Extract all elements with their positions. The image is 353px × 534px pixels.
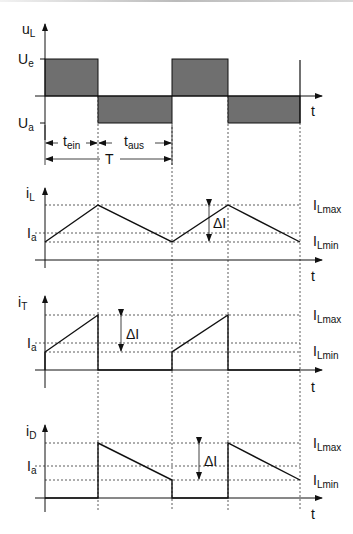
- iD-time-label: t: [311, 506, 315, 522]
- iL-axis-label: iL: [26, 185, 35, 203]
- plot-iT: ΔI iT Ia ILmax ILmin t: [18, 294, 341, 395]
- Ua-level-label: Ua: [18, 115, 34, 133]
- plot-iL: ΔI iL Ia ILmax ILmin t: [26, 185, 341, 284]
- iL-time-label: t: [311, 268, 315, 284]
- iD-ILmax-label: ILmax: [313, 435, 341, 453]
- iT-time-label: t: [311, 379, 315, 395]
- iD-Ia-label: Ia: [27, 458, 37, 476]
- iD-axis-label: iD: [26, 423, 36, 441]
- uL-time-label: t: [311, 103, 315, 119]
- iL-Ia-label: Ia: [27, 225, 37, 243]
- iT-delta-label: ΔI: [126, 326, 139, 342]
- iT-ILmin-label: ILmin: [313, 343, 339, 361]
- iD-ILmin-label: ILmin: [313, 472, 339, 490]
- buck-converter-waveform-diagram: uL Ue Ua t tein taus T ΔI iL Ia ILmax IL…: [0, 0, 353, 534]
- timing-dimensions: tein taus T: [45, 125, 172, 167]
- iL-ILmax-label: ILmax: [313, 197, 341, 215]
- ton-label: tein: [63, 133, 80, 151]
- plot-iD: ΔI iD Ia ILmax ILmin t: [26, 423, 341, 522]
- Ue-level-label: Ue: [18, 51, 34, 69]
- iD-delta-label: ΔI: [204, 453, 217, 469]
- uL-axis-label: uL: [22, 21, 36, 39]
- iT-Ia-label: Ia: [27, 335, 37, 353]
- toff-label: taus: [124, 133, 144, 151]
- iL-delta-label: ΔI: [213, 215, 226, 231]
- plot-uL: uL Ue Ua t: [18, 21, 322, 140]
- iT-axis-label: iT: [18, 294, 27, 312]
- iL-ILmin-label: ILmin: [313, 233, 339, 251]
- iT-ILmax-label: ILmax: [313, 307, 341, 325]
- period-label: T: [105, 151, 114, 167]
